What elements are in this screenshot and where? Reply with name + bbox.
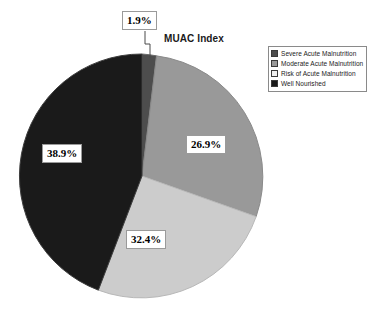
data-label-well: 38.9% [42, 144, 82, 163]
pie-chart: MUAC Index 1.9% 26.9% 32.4% 38.9% Severe… [0, 0, 371, 322]
chart-legend: Severe Acute Malnutrition Moderate Acute… [268, 46, 367, 92]
legend-swatch-icon [271, 60, 278, 67]
legend-swatch-icon [271, 70, 278, 77]
data-label-risk: 32.4% [126, 230, 166, 249]
legend-item-label: Well Nourished [281, 80, 326, 88]
legend-item-label: Moderate Acute Malnutrition [281, 60, 363, 68]
legend-item-risk[interactable]: Risk of Acute Malnutrition [271, 69, 364, 78]
legend-item-severe[interactable]: Severe Acute Malnutrition [271, 49, 364, 58]
legend-item-label: Risk of Acute Malnutrition [281, 70, 356, 78]
legend-swatch-icon [271, 50, 278, 57]
legend-item-label: Severe Acute Malnutrition [281, 50, 356, 58]
legend-swatch-icon [271, 80, 278, 87]
legend-item-moderate[interactable]: Moderate Acute Malnutrition [271, 59, 364, 68]
chart-title: MUAC Index [164, 33, 224, 44]
data-label-moderate: 26.9% [186, 135, 226, 154]
legend-item-well[interactable]: Well Nourished [271, 79, 364, 88]
data-label-severe: 1.9% [122, 11, 157, 30]
